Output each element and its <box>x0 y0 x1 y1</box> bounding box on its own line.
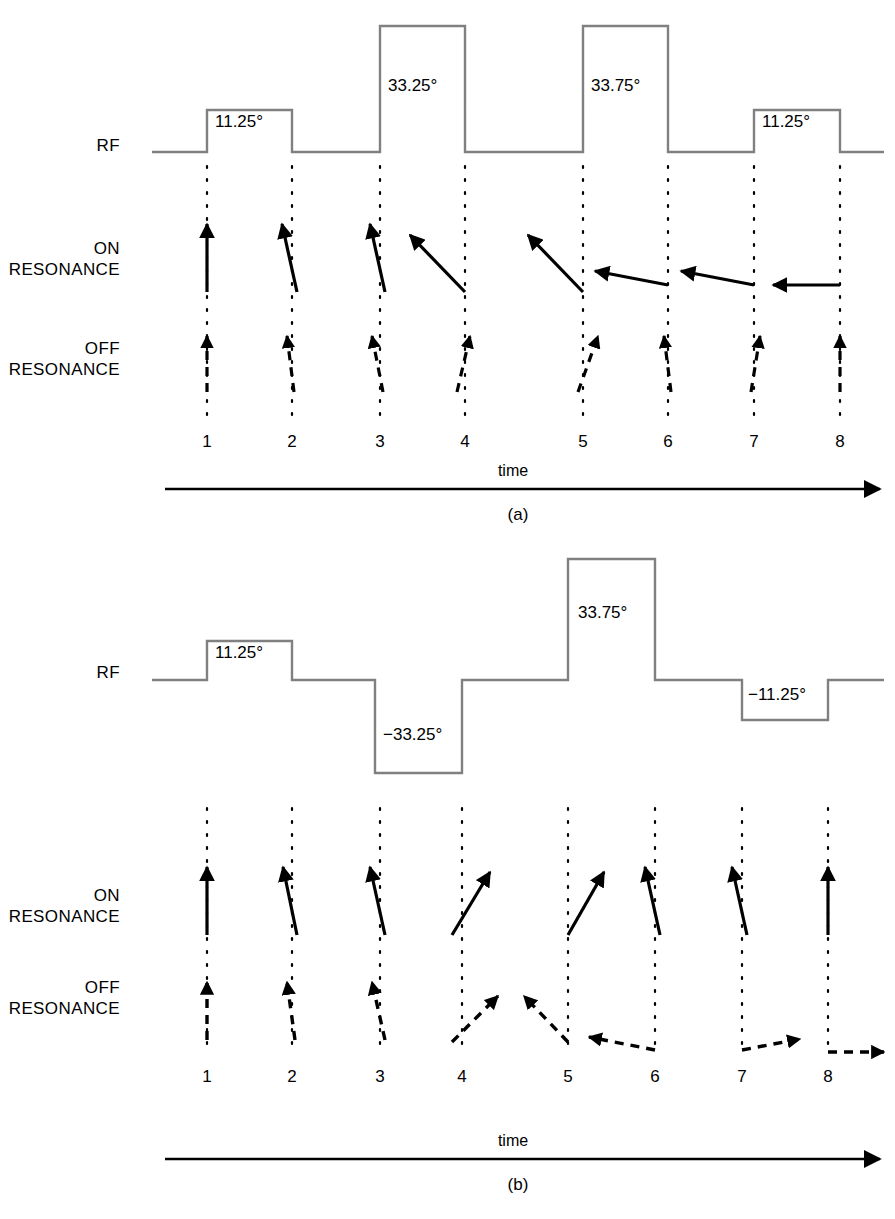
tick-number-b-5: 5 <box>553 1067 583 1087</box>
off-vector-2-a <box>287 336 294 392</box>
tick-number-a-3: 3 <box>365 432 395 452</box>
rf-flip-label-a-2: 33.25° <box>388 76 437 96</box>
tick-number-a-1: 1 <box>192 432 222 452</box>
panel-caption-a: (a) <box>488 505 548 525</box>
off-vector-7-a <box>751 336 760 392</box>
time-label-b: time <box>473 1132 553 1150</box>
rf-waveform-a <box>152 26 884 152</box>
tick-number-a-7: 7 <box>739 432 769 452</box>
off-vector-6-b <box>589 1037 655 1050</box>
time-guides-a <box>207 166 840 418</box>
time-label-a: time <box>473 462 553 480</box>
panel-b: RF ON RESONANCE OFF RESONANCE <box>0 540 895 1219</box>
off-vector-4-b <box>452 996 498 1042</box>
on-vector-3-a <box>370 224 385 292</box>
off-vector-4-a <box>457 336 470 392</box>
on-vector-2-a <box>282 224 297 292</box>
rf-flip-label-a-3: 33.75° <box>591 76 640 96</box>
on-vector-2-b <box>283 867 297 935</box>
on-vector-7-b <box>732 867 747 935</box>
off-vector-5-a <box>578 336 598 392</box>
off-vector-3-b <box>372 982 385 1040</box>
rf-flip-label-b-4: −11.25° <box>748 685 806 705</box>
time-guides-b <box>207 808 828 1052</box>
on-resonance-vectors-a <box>207 224 840 292</box>
tick-number-a-2: 2 <box>277 432 307 452</box>
on-vector-4-b <box>452 872 490 935</box>
tick-number-b-6: 6 <box>640 1067 670 1087</box>
tick-number-a-4: 4 <box>450 432 480 452</box>
rf-flip-label-a-4: 11.25° <box>762 112 810 132</box>
tick-number-b-7: 7 <box>727 1067 757 1087</box>
tick-number-b-8: 8 <box>813 1067 843 1087</box>
rf-flip-label-b-3: 33.75° <box>578 603 627 623</box>
tick-number-b-2: 2 <box>277 1067 307 1087</box>
panel-a: RF ON RESONANCE OFF RESONANCE <box>0 0 895 540</box>
tick-number-a-5: 5 <box>568 432 598 452</box>
on-vector-7-a <box>681 271 754 285</box>
rf-waveform-b <box>152 559 884 773</box>
off-resonance-vectors-b <box>207 982 884 1052</box>
on-vector-5-b <box>568 872 604 935</box>
on-vector-6-a <box>595 271 668 285</box>
tick-number-a-8: 8 <box>825 432 855 452</box>
on-vector-5-a <box>528 235 583 292</box>
on-vector-3-b <box>370 867 385 935</box>
off-vector-3-a <box>372 336 383 392</box>
rf-flip-label-b-2: −33.25° <box>383 725 442 745</box>
on-vector-6-b <box>645 867 660 935</box>
tick-number-b-1: 1 <box>192 1067 222 1087</box>
panel-caption-b: (b) <box>488 1175 548 1195</box>
tick-number-a-6: 6 <box>653 432 683 452</box>
off-resonance-vectors-a <box>207 336 840 392</box>
tick-number-b-3: 3 <box>365 1067 395 1087</box>
tick-number-b-4: 4 <box>447 1067 477 1087</box>
off-vector-7-b <box>742 1039 800 1050</box>
on-vector-4-a <box>410 235 465 292</box>
on-resonance-vectors-b <box>207 867 828 935</box>
off-vector-5-b <box>524 996 568 1042</box>
rf-flip-label-a-1: 11.25° <box>215 112 263 132</box>
rf-flip-label-b-1: 11.25° <box>215 643 263 663</box>
off-vector-6-a <box>664 336 671 392</box>
